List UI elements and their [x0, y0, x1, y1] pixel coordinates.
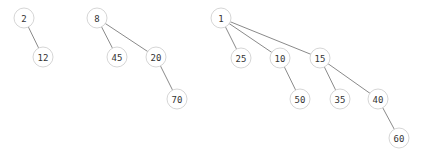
tree-node: 8 [87, 8, 107, 28]
node-label: 1 [218, 14, 223, 24]
node-label: 25 [236, 54, 247, 64]
node-label: 60 [394, 134, 405, 144]
node-label: 20 [151, 53, 162, 63]
node-label: 35 [335, 95, 346, 105]
tree-node: 2 [14, 8, 34, 28]
tree-node: 50 [290, 89, 310, 109]
tree-node: 60 [389, 128, 409, 148]
node-label: 40 [373, 95, 384, 105]
node-label: 70 [172, 95, 183, 105]
tree-node: 12 [33, 47, 53, 67]
tree-node: 15 [310, 48, 330, 68]
tree-node: 1 [211, 8, 231, 28]
node-label: 8 [94, 14, 99, 24]
tree-node: 40 [368, 89, 388, 109]
tree-node: 70 [167, 89, 187, 109]
tree-node: 45 [107, 47, 127, 67]
node-label: 2 [21, 14, 26, 24]
tree-edge [97, 18, 156, 57]
node-label: 50 [295, 95, 306, 105]
node-label: 15 [315, 54, 326, 64]
tree-node: 25 [231, 48, 251, 68]
node-label: 12 [38, 53, 49, 63]
node-label: 45 [112, 53, 123, 63]
tree-node: 20 [146, 47, 166, 67]
tree-node: 10 [270, 48, 290, 68]
edges-layer [24, 18, 399, 138]
tree-node: 35 [330, 89, 350, 109]
node-label: 10 [275, 54, 286, 64]
tree-edge [320, 58, 378, 99]
tree-forest-diagram: 2128452070125101550354060 [0, 0, 425, 157]
nodes-layer: 2128452070125101550354060 [14, 8, 409, 148]
